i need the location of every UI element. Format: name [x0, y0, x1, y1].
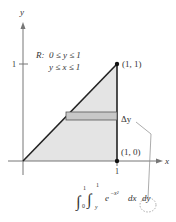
y-axis-arrow-icon [21, 22, 26, 29]
region-condition-1: 0 ≤ y ≤ 1 [49, 50, 81, 60]
point-label-1-0: (1, 0) [121, 147, 141, 157]
integrand-exponent: −x² [110, 190, 119, 196]
outer-lower-limit: 0 [82, 203, 85, 209]
y-tick-label: 1 [12, 60, 16, 69]
y-axis-label: y [19, 7, 24, 17]
x-axis-arrow-icon [156, 159, 163, 164]
x-tick-label: 1 [115, 167, 119, 176]
inner-upper-limit: 1 [96, 182, 99, 188]
region-label: R: [35, 50, 45, 60]
integral-sign-inner: ∫ [86, 191, 93, 210]
point-label-1-1: (1, 1) [122, 59, 142, 69]
outer-upper-limit: 1 [83, 185, 86, 191]
dx-term: dx [128, 193, 137, 203]
point-1-1 [115, 62, 119, 66]
representative-strip [66, 112, 117, 120]
integral-expression: ∫ 1 0 ∫ 1 y e −x² dx dy [75, 182, 151, 212]
integral-sign-outer: ∫ [75, 193, 82, 212]
dy-term: dy [142, 193, 151, 203]
integrand-base: e [105, 193, 109, 203]
inner-lower-limit: y [94, 204, 98, 210]
region-condition-2: y ≤ x ≤ 1 [48, 62, 80, 72]
leader-line [136, 122, 151, 198]
diagram-canvas: y x 1 1 R: 0 ≤ y ≤ 1 y ≤ x ≤ 1 (1, 1) (1… [0, 0, 176, 222]
point-1-0 [115, 159, 119, 163]
x-axis-label: x [164, 156, 169, 166]
strip-label: Δy [121, 114, 132, 124]
